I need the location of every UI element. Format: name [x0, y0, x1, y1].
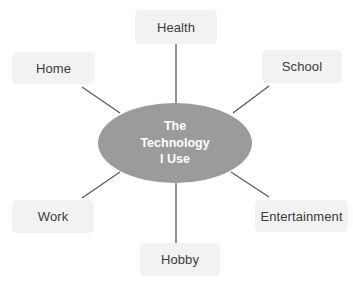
node-health[interactable]: Health [135, 10, 217, 44]
node-home-label: Home [36, 62, 71, 75]
node-hobby[interactable]: Hobby [140, 243, 220, 276]
node-school-label: School [282, 60, 322, 73]
hub-label: The Technology I Use [98, 103, 252, 183]
node-work-label: Work [38, 210, 69, 223]
node-entertainment-label: Entertainment [260, 210, 342, 223]
node-work[interactable]: Work [12, 200, 94, 233]
node-hobby-label: Hobby [161, 253, 199, 266]
node-school[interactable]: School [262, 50, 342, 83]
hub-label-line-2: Technology [140, 135, 209, 152]
node-home[interactable]: Home [12, 52, 95, 84]
hub-label-line-3: I Use [160, 151, 190, 168]
node-entertainment[interactable]: Entertainment [255, 200, 348, 232]
central-hub[interactable]: The Technology I Use [98, 103, 252, 183]
node-health-label: Health [157, 21, 195, 34]
mind-map-diagram: The Technology I Use Health School Enter… [0, 0, 353, 285]
hub-label-line-1: The [164, 118, 186, 135]
